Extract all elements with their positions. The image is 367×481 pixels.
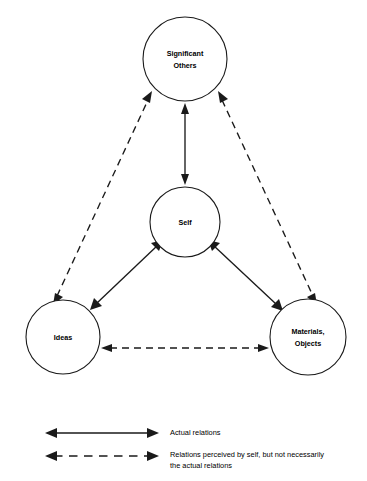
node-label-line1: Materials, (291, 327, 324, 336)
arrow-head-up (181, 103, 189, 114)
legend-label-perceived-relations-line1: Relations perceived by self, but not nec… (170, 450, 324, 459)
edge-self-significant-others (181, 103, 189, 185)
edge-line (213, 245, 276, 304)
legend-item-actual-relations: Actual relations (45, 428, 221, 438)
node-circle (143, 17, 227, 101)
relations-diagram: Significant Others Self Ideas Materials,… (0, 0, 367, 481)
node-label-line2: Others (173, 61, 196, 70)
node-label-line1: Self (178, 218, 192, 227)
arrow-head-right (147, 451, 159, 461)
arrow-head-to-materials (258, 344, 269, 352)
node-label-line2: Objects (295, 339, 321, 348)
edge-ideas-materials-objects (101, 344, 269, 352)
arrow-head-to-significant-others (218, 91, 228, 103)
arrow-head-down (181, 174, 189, 185)
node-label-line1: Significant (167, 49, 204, 58)
node-ideas[interactable]: Ideas (26, 300, 100, 374)
edge-materials-objects-significant-others (218, 91, 317, 305)
arrow-head-to-significant-others (142, 91, 152, 103)
arrow-head-left (45, 428, 57, 438)
edge-self-ideas (90, 240, 163, 310)
legend-label-actual-relations: Actual relations (170, 428, 221, 437)
node-significant-others[interactable]: Significant Others (143, 17, 227, 101)
diagram-canvas: Significant Others Self Ideas Materials,… (0, 0, 367, 481)
arrow-head-right (147, 428, 159, 438)
legend-label-perceived-relations-line2: the actual relations (170, 461, 232, 470)
arrow-head-to-ideas (101, 344, 112, 352)
edge-line (97, 245, 158, 303)
edge-self-materials-objects (208, 240, 283, 311)
node-label-line1: Ideas (54, 333, 72, 342)
legend-item-perceived-relations: Relations perceived by self, but not nec… (45, 450, 324, 470)
node-self[interactable]: Self (150, 187, 220, 257)
legend: Actual relations Relations perceived by … (45, 428, 324, 470)
arrow-head-left (45, 451, 57, 461)
node-materials-objects[interactable]: Materials, Objects (270, 299, 346, 375)
edge-ideas-significant-others (53, 91, 152, 305)
node-circle (270, 299, 346, 375)
